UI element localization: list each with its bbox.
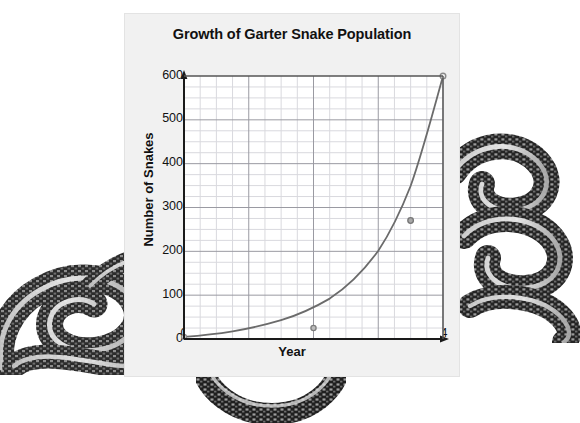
plot-svg xyxy=(125,14,459,376)
marker-year-2 xyxy=(311,325,316,330)
plot-area xyxy=(125,14,459,376)
x-axis-arrow xyxy=(440,336,449,343)
garter-snake-right-image xyxy=(452,128,580,343)
snake-right-illustration xyxy=(452,128,580,343)
y-axis-arrow xyxy=(181,70,188,79)
screenshot-canvas: Growth of Garter Snake Population Number… xyxy=(0,0,580,423)
marker-year-3-5 xyxy=(408,218,414,224)
chart-panel: Growth of Garter Snake Population Number… xyxy=(125,14,459,376)
